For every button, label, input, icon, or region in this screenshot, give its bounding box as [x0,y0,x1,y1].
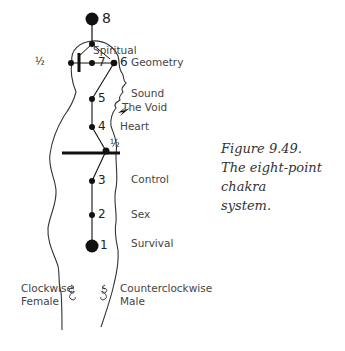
chakra-number-4: 4 [98,120,106,132]
chakra-diagram: 8 Spiritual ½ 7 6 Geometry Sound 5 The V… [0,0,345,351]
caption-title-line2: system. [221,196,341,215]
label-male: Male [120,296,145,307]
label-sex: Sex [131,209,150,220]
figure-caption: Figure 9.49. The eight-point chakra syst… [221,139,341,215]
chakra-point-3 [89,178,95,184]
chakra-number-head-half: ½ [35,57,45,67]
chakra-point-diaphragm-half [103,148,110,155]
chakra-number-1: 1 [100,239,108,251]
label-spiritual: Spiritual [93,45,137,56]
label-clockwise: Clockwise [21,283,73,294]
label-control: Control [131,174,169,185]
chakra-number-diaphragm-half: ½ [110,139,120,149]
chakra-number-8: 8 [102,11,111,25]
chakra-point-7 [89,60,95,66]
chakra-point-5 [89,96,95,102]
label-survival: Survival [131,238,173,249]
chakra-point-1 [86,240,99,253]
chakra-point-4 [89,124,95,130]
chakra-point-6 [111,60,118,67]
chakra-point-head-half [68,60,74,66]
chakra-number-7: 7 [98,56,106,68]
counterclockwise-spiral-icon [101,285,107,300]
chakra-number-5: 5 [98,92,106,104]
caption-title-line1: The eight-point chakra [221,158,341,196]
chakra-number-6: 6 [120,56,128,68]
label-geometry: Geometry [131,57,183,68]
chakra-number-2: 2 [98,208,106,220]
label-sound: Sound [131,88,164,99]
label-female: Female [21,296,59,307]
chakra-number-3: 3 [98,174,106,186]
chakra-point-2 [89,212,95,218]
chakra-point-8 [86,13,99,26]
label-heart: Heart [120,121,149,132]
caption-figure-number: Figure 9.49. [221,139,341,158]
label-the-void: The Void [122,102,167,113]
label-counterclockwise: Counterclockwise [120,283,212,294]
